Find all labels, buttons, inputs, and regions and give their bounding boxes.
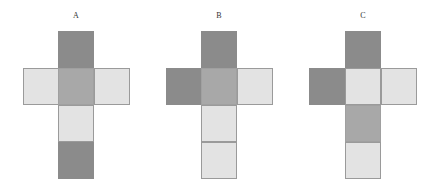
net-a-face-1 [58, 31, 94, 68]
net-b-face-2 [166, 68, 202, 105]
net-a-face-4 [94, 68, 130, 105]
net-b-face-5 [201, 105, 237, 142]
net-b-face-4 [237, 68, 273, 105]
net-c-face-2 [309, 68, 345, 105]
net-a-face-6 [58, 142, 94, 179]
net-c-face-6 [345, 142, 381, 179]
net-b-face-1 [201, 31, 237, 68]
net-c-face-5 [345, 105, 381, 142]
net-a-face-2 [23, 68, 59, 105]
net-b-face-6 [201, 142, 237, 179]
net-a-face-5 [58, 105, 94, 142]
net-c-face-1 [345, 31, 381, 68]
net-c-face-4 [381, 68, 417, 105]
net-b-face-3 [201, 68, 237, 105]
cube-nets-figure: A B C [0, 0, 437, 185]
net-a-face-3 [58, 68, 94, 105]
net-c-label: C [353, 11, 373, 20]
net-c-face-3 [345, 68, 381, 105]
net-a-label: A [66, 11, 86, 20]
net-b-label: B [209, 11, 229, 20]
